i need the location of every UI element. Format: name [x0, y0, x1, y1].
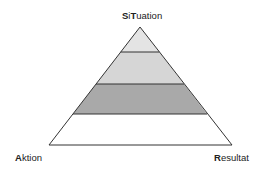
label-resultat-rest: esultat: [221, 152, 249, 163]
label-situation: SiTuation: [122, 11, 162, 21]
label-resultat: Resultat: [214, 153, 249, 163]
label-resultat-r: R: [214, 152, 221, 163]
pyramid-layer-4: [49, 114, 232, 145]
label-aktion: Aktion: [15, 153, 42, 163]
label-aktion-rest: ktion: [22, 152, 42, 163]
label-situation-rest: uation: [136, 10, 162, 21]
label-aktion-a: A: [15, 152, 22, 163]
pyramid-diagram: [0, 0, 266, 171]
pyramid-layer-1: [121, 27, 160, 52]
pyramid-layer-2: [96, 52, 184, 84]
